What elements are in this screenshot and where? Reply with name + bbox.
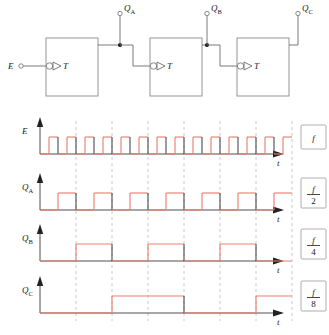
output-terminal-qb[interactable] bbox=[205, 11, 209, 15]
flipflop-3-edge-triangle-icon bbox=[244, 62, 252, 70]
time-axis-label-QB: t bbox=[277, 265, 280, 275]
output-terminal-qa[interactable] bbox=[118, 11, 122, 15]
timing-label-sub-QC: C bbox=[29, 290, 33, 297]
wire-ff2-to-ff3 bbox=[207, 45, 237, 66]
timing-row-E: Et bbox=[21, 117, 292, 168]
flipflop-3-input-label: T bbox=[254, 61, 260, 71]
timing-rows: EtQAtQBtQCt bbox=[21, 117, 292, 327]
flipflop-1-body[interactable] bbox=[46, 38, 98, 96]
figure-root: E T Q A T Q B T Q C bbox=[0, 0, 329, 335]
frequency-denominator-QA: 2 bbox=[311, 196, 316, 206]
flipflop-3-clock-bubble-icon bbox=[237, 63, 243, 69]
flipflop-1-input-label: T bbox=[63, 61, 69, 71]
timing-row-QA: QAt bbox=[22, 173, 292, 224]
frequency-box-QB: f4 bbox=[301, 229, 326, 259]
time-axis-label-QC: t bbox=[277, 317, 280, 327]
output-terminal-qc[interactable] bbox=[296, 11, 300, 15]
circuit-diagram: E T Q A T Q B T Q C bbox=[0, 0, 329, 110]
timing-label-sub-QB: B bbox=[29, 238, 34, 245]
input-label-e: E bbox=[7, 61, 14, 71]
time-axis-label-QA: t bbox=[277, 214, 280, 224]
timing-label-E: E bbox=[21, 126, 28, 136]
timing-row-QC: QCt bbox=[22, 276, 292, 327]
timing-diagram: EtQAtQBtQCt ff2f4f8 bbox=[0, 107, 329, 335]
frequency-annotation-boxes: ff2f4f8 bbox=[301, 125, 326, 311]
flipflop-2-input-label: T bbox=[167, 61, 173, 71]
flipflop-1-clock-bubble-icon bbox=[46, 63, 52, 69]
wire-qc-up bbox=[289, 16, 298, 45]
frequency-denominator-QC: 8 bbox=[311, 299, 316, 309]
time-axis-label-E: t bbox=[277, 158, 280, 168]
flipflop-2-edge-triangle-icon bbox=[157, 62, 165, 70]
flipflop-3-body[interactable] bbox=[237, 38, 289, 96]
wire-ff1-to-ff2 bbox=[120, 45, 150, 66]
timing-row-QB: QBt bbox=[22, 224, 292, 275]
output-sub-qa: A bbox=[131, 8, 136, 15]
output-sub-qc: C bbox=[309, 8, 313, 15]
frequency-denominator-QB: 4 bbox=[311, 247, 316, 257]
frequency-box-E: f bbox=[301, 125, 326, 149]
output-sub-qb: B bbox=[218, 8, 223, 15]
frequency-box-QA: f2 bbox=[301, 178, 326, 208]
timing-label-sub-QA: A bbox=[29, 187, 34, 194]
flipflop-2-body[interactable] bbox=[150, 38, 202, 96]
flipflop-1-edge-triangle-icon bbox=[53, 62, 61, 70]
flipflop-2-clock-bubble-icon bbox=[150, 63, 156, 69]
frequency-box-QC: f8 bbox=[301, 281, 326, 311]
input-terminal-e[interactable] bbox=[19, 64, 23, 68]
